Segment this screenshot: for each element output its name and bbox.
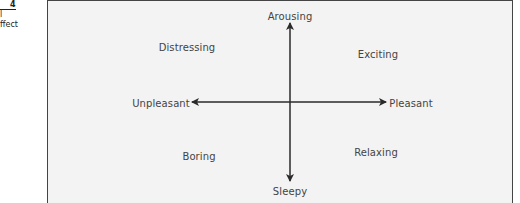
axis-label-unpleasant: Unpleasant bbox=[132, 98, 190, 109]
quadrant-label-boring: Boring bbox=[182, 151, 215, 162]
quadrant-label-exciting: Exciting bbox=[358, 49, 399, 60]
quadrant-label-relaxing: Relaxing bbox=[354, 147, 398, 158]
axis-label-pleasant: Pleasant bbox=[389, 98, 433, 109]
affect-axes bbox=[0, 0, 520, 203]
quadrant-label-distressing: Distressing bbox=[159, 42, 216, 53]
axis-label-sleepy: Sleepy bbox=[273, 186, 307, 197]
axis-label-arousing: Arousing bbox=[268, 11, 313, 22]
